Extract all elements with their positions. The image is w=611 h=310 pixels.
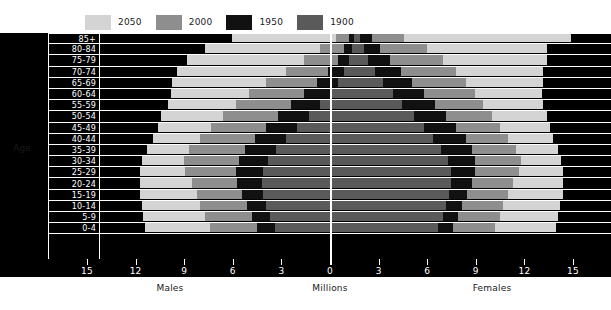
- age-row-15-19: 15-19: [48, 190, 100, 201]
- bar-segment-2050: [513, 178, 563, 187]
- bar-segment-1900: [309, 111, 356, 120]
- table-row: [100, 145, 611, 156]
- age-row-70-74: 70-74: [48, 67, 100, 78]
- bar-segment-1950: [317, 78, 338, 87]
- age-row-55-59: 55-59: [48, 100, 100, 111]
- bar-segment-2000: [320, 44, 344, 53]
- bar-segment-1950: [237, 178, 261, 187]
- age-axis-labels: 85+80-8475-7970-7465-6960-6455-5950-5445…: [48, 33, 100, 259]
- bar-segment-2050: [140, 167, 185, 176]
- age-label: 10-14: [72, 201, 96, 210]
- females-bar-15-19: [356, 190, 563, 199]
- legend-swatch-1950: [226, 15, 252, 30]
- bar-segment-2000: [467, 190, 508, 199]
- bar-segment-1950: [257, 223, 275, 232]
- bar-segment-2050: [171, 89, 249, 98]
- bar-segment-2000: [446, 111, 491, 120]
- bar-segment-2050: [503, 201, 560, 210]
- table-row: [100, 100, 611, 111]
- bar-rows: [100, 33, 611, 259]
- bar-segment-1950: [393, 89, 424, 98]
- x-tick-label: 6: [230, 266, 236, 276]
- age-row-35-39: 35-39: [48, 145, 100, 156]
- legend-swatch-2050: [85, 15, 111, 30]
- bar-segment-1950: [266, 123, 297, 132]
- legend-label-1900: 1900: [330, 17, 354, 27]
- bar-segment-2000: [236, 100, 291, 109]
- bar-segment-2000: [197, 190, 242, 199]
- age-row-20-24: 20-24: [48, 178, 100, 189]
- bar-segment-2050: [495, 223, 557, 232]
- bar-segment-2000: [412, 78, 465, 87]
- bar-segment-2050: [161, 111, 223, 120]
- bar-segment-1900: [356, 145, 442, 154]
- bar-segment-1950: [402, 100, 434, 109]
- females-bar-20-24: [356, 178, 563, 187]
- legend-item-1900[interactable]: 1900: [297, 15, 354, 30]
- table-row: [100, 201, 611, 212]
- bar-segment-1900: [356, 89, 393, 98]
- bar-segment-1950: [414, 111, 446, 120]
- x-tick-label: 6: [424, 266, 430, 276]
- bar-segment-2000: [249, 89, 304, 98]
- bar-segment-1950: [245, 145, 276, 154]
- population-pyramid-chart: 2050200019501900 85+80-8475-7970-7465-69…: [0, 0, 611, 310]
- bar-segment-2050: [483, 100, 543, 109]
- bar-segment-2050: [500, 123, 550, 132]
- bar-segment-2050: [172, 78, 266, 87]
- bar-segment-2050: [443, 55, 547, 64]
- table-row: [100, 223, 611, 234]
- x-tick: [476, 259, 477, 265]
- males-bar-25-29: [140, 167, 355, 176]
- age-label: 60-64: [72, 90, 96, 99]
- bar-segment-2050: [508, 134, 553, 143]
- bar-segment-2000: [372, 34, 404, 42]
- bar-segment-1900: [338, 78, 356, 87]
- age-label: 85+: [79, 34, 96, 43]
- males-bar-20-24: [140, 178, 355, 187]
- females-bar-70-74: [356, 67, 544, 76]
- males-bar-45-49: [158, 123, 356, 132]
- bar-segment-2050: [516, 145, 558, 154]
- bar-segment-2050: [168, 100, 236, 109]
- bar-segment-2050: [500, 212, 558, 221]
- females-bar-65-69: [356, 78, 544, 87]
- bar-segment-1900: [330, 89, 356, 98]
- bar-segment-2000: [466, 134, 508, 143]
- bar-segment-2000: [458, 212, 500, 221]
- bar-segment-1950: [252, 212, 270, 221]
- bar-segment-1900: [356, 190, 450, 199]
- females-bar-30-34: [356, 156, 562, 165]
- x-tick-label: 9: [181, 266, 187, 276]
- bar-segment-2000: [390, 55, 443, 64]
- table-row: [100, 55, 611, 66]
- x-tick-label: 3: [278, 266, 284, 276]
- bar-segment-1950: [368, 55, 389, 64]
- bar-segment-1900: [297, 123, 355, 132]
- table-row: [100, 190, 611, 201]
- table-row: [100, 156, 611, 167]
- bar-segment-1950: [291, 100, 320, 109]
- age-label: 50-54: [72, 112, 96, 121]
- bar-segment-1900: [263, 190, 355, 199]
- bar-segment-2000: [435, 100, 484, 109]
- age-label: 25-29: [72, 168, 96, 177]
- males-bar-40-44: [153, 134, 355, 143]
- bar-segment-1900: [356, 111, 414, 120]
- bar-segment-1900: [276, 145, 355, 154]
- age-row-0-4: 0-4: [48, 223, 100, 234]
- legend-item-1950[interactable]: 1950: [226, 15, 283, 30]
- age-row-5-9: 5-9: [48, 212, 100, 223]
- bar-segment-2050: [187, 55, 304, 64]
- bar-segment-2000: [401, 67, 456, 76]
- x-tick: [524, 259, 525, 265]
- males-bar-55-59: [168, 100, 356, 109]
- males-bar-30-34: [142, 156, 356, 165]
- bar-segment-1950: [443, 212, 458, 221]
- x-tick: [427, 259, 428, 265]
- legend-item-2050[interactable]: 2050: [85, 15, 142, 30]
- x-tick-label: 15: [81, 266, 93, 276]
- bar-segment-1900: [268, 156, 355, 165]
- females-bar-10-14: [356, 201, 560, 210]
- legend-item-2000[interactable]: 2000: [156, 15, 213, 30]
